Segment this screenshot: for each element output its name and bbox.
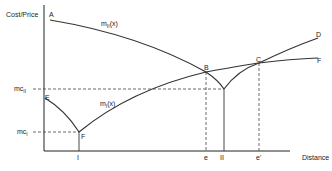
- cost-distance-diagram: Cost/Price Distance A B C D E F F mII(x)…: [0, 0, 332, 171]
- x-tick-I: I: [77, 154, 79, 161]
- m-II-curve-right: [224, 38, 318, 89]
- x-axis-label: Distance: [302, 154, 329, 161]
- point-F-end-label: F: [317, 57, 321, 64]
- m-I-curve-left: [45, 98, 79, 132]
- point-F-label: F: [81, 133, 85, 140]
- x-tick-e-prime: e': [256, 154, 261, 161]
- x-tick-e: e: [204, 154, 208, 161]
- mc-II-label: mcII: [14, 85, 26, 94]
- curve-m-II-label: mII(x): [101, 20, 118, 29]
- mc-I-label: mcI: [17, 128, 28, 137]
- point-A-label: A: [49, 11, 54, 18]
- point-E-label: E: [45, 94, 50, 101]
- m-I-curve-right: [79, 58, 318, 132]
- point-C-label: C: [256, 56, 261, 63]
- y-axis-label: Cost/Price: [6, 11, 38, 18]
- point-D-label: D: [316, 31, 321, 38]
- x-tick-II: II: [220, 154, 224, 161]
- m-II-curve-left: [50, 20, 224, 89]
- point-B-label: B: [204, 64, 209, 71]
